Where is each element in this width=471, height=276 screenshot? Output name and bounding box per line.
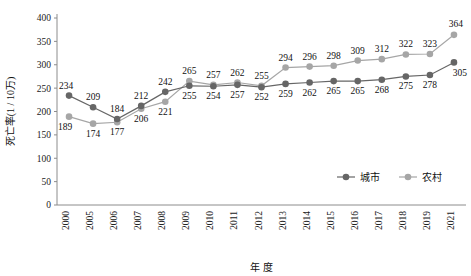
data-point	[258, 84, 265, 91]
data-label: 221	[158, 107, 173, 117]
x-tick-label: 2018	[398, 211, 408, 230]
legend-marker-rural	[405, 174, 412, 181]
data-label: 262	[302, 88, 317, 98]
x-tick-label: 2000	[61, 211, 71, 230]
data-point	[427, 72, 434, 79]
legend-label-rural: 农村	[422, 171, 442, 183]
data-label: 312	[375, 44, 390, 54]
data-point	[234, 82, 241, 89]
x-tick-label: 2012	[254, 211, 264, 230]
data-point	[66, 92, 73, 99]
data-label: 265	[327, 86, 342, 96]
data-point	[451, 32, 458, 39]
y-tick-label: 200	[37, 107, 52, 117]
y-tick-label: 100	[37, 154, 52, 164]
x-tick-label: 2015	[326, 211, 336, 230]
y-axis-title: 死亡率(1 / 10万)	[4, 77, 17, 146]
data-label: 309	[351, 46, 366, 56]
y-tick-label: 300	[37, 60, 52, 70]
data-label: 278	[423, 80, 438, 90]
x-tick-label: 2008	[157, 211, 167, 230]
data-point	[330, 62, 337, 69]
data-label: 177	[110, 127, 125, 137]
x-tick-label: 2010	[205, 211, 215, 230]
data-point	[306, 79, 313, 86]
x-tick-label: 2014	[302, 211, 312, 230]
chart-legend: 城市农村	[337, 171, 442, 183]
x-tick-label: 2013	[278, 211, 288, 230]
data-label: 305	[453, 68, 468, 78]
data-label: 265	[351, 86, 366, 96]
data-label: 252	[254, 92, 269, 102]
data-label: 189	[58, 122, 73, 132]
x-axis-title: 年 度	[250, 261, 273, 273]
y-tick-label: 50	[42, 177, 52, 187]
data-label: 268	[375, 85, 390, 95]
data-point	[210, 83, 217, 90]
data-label: 212	[134, 91, 149, 101]
y-tick-label: 250	[37, 84, 52, 94]
data-label: 259	[278, 89, 293, 99]
data-point	[138, 103, 145, 110]
data-label: 262	[230, 68, 245, 78]
data-point	[451, 59, 458, 66]
data-label: 206	[134, 114, 149, 124]
data-label: 364	[449, 19, 464, 29]
x-tick-label: 2019	[422, 211, 432, 230]
data-label: 296	[302, 52, 317, 62]
data-label: 174	[86, 129, 101, 139]
data-label: 184	[110, 104, 125, 114]
data-point	[427, 51, 434, 58]
x-tick-label: 2011	[229, 211, 239, 230]
data-label: 323	[423, 39, 438, 49]
data-point	[378, 56, 385, 63]
legend-marker-urban	[343, 174, 350, 181]
x-tick-label: 2016	[350, 211, 360, 230]
x-tick-label: 2007	[133, 211, 143, 230]
data-point	[90, 104, 97, 111]
data-point	[186, 82, 193, 89]
data-point	[162, 98, 169, 105]
x-tick-label: 2005	[85, 211, 95, 230]
data-label: 242	[158, 77, 173, 87]
data-point	[90, 120, 97, 127]
data-point	[354, 57, 361, 64]
data-label: 322	[399, 39, 414, 49]
y-tick-label: 0	[46, 200, 51, 210]
data-point	[378, 76, 385, 83]
legend-label-urban: 城市	[360, 171, 380, 183]
chart-canvas: 0501001502002503003504002000200520062007…	[0, 0, 471, 276]
data-point	[306, 63, 313, 70]
data-point	[66, 113, 73, 120]
data-label: 294	[278, 53, 293, 63]
data-point	[403, 51, 410, 58]
data-label: 265	[182, 66, 197, 76]
data-label: 275	[399, 81, 414, 91]
x-tick-label: 2009	[181, 211, 191, 230]
data-point	[282, 81, 289, 88]
x-tick-label: 2021	[446, 211, 456, 230]
data-point	[354, 78, 361, 85]
data-point	[403, 73, 410, 80]
data-label: 209	[86, 92, 101, 102]
data-label: 254	[206, 91, 221, 101]
data-point	[330, 78, 337, 85]
data-label: 257	[206, 70, 221, 80]
y-tick-label: 150	[37, 130, 52, 140]
y-tick-label: 350	[37, 37, 52, 47]
data-point	[114, 116, 121, 123]
data-label: 234	[59, 81, 74, 91]
data-label: 255	[182, 91, 197, 101]
x-tick-label: 2017	[374, 211, 384, 230]
data-label: 298	[327, 51, 342, 61]
x-tick-label: 2006	[109, 211, 119, 230]
data-point	[162, 89, 169, 96]
data-label: 257	[230, 90, 245, 100]
data-point	[282, 64, 289, 71]
y-tick-label: 400	[37, 13, 52, 23]
data-label: 255	[254, 71, 269, 81]
line-chart: 0501001502002503003504002000200520062007…	[0, 0, 471, 276]
